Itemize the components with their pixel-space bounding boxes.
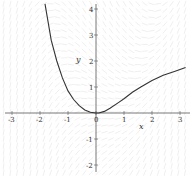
y-tick-label: -1 xyxy=(86,136,93,144)
x-tick-label: -3 xyxy=(8,116,15,124)
slope-field xyxy=(3,1,186,176)
x-tick-label: 3 xyxy=(178,116,182,124)
direction-field-plot: -3-2-10123-2-11234 y x xyxy=(0,0,193,176)
y-axis-label: y xyxy=(75,55,81,64)
x-tick-label: 2 xyxy=(150,116,154,124)
axes xyxy=(5,4,190,172)
x-tick-label: -1 xyxy=(64,116,71,124)
x-tick-label: -2 xyxy=(36,116,43,124)
x-axis-label: x xyxy=(139,122,144,131)
x-tick-label: 0 xyxy=(94,116,98,124)
y-tick-label: 4 xyxy=(89,6,94,14)
y-tick-label: 2 xyxy=(89,58,93,66)
y-tick-label: 3 xyxy=(89,32,93,40)
x-tick-label: 1 xyxy=(122,116,126,124)
y-tick-label: -2 xyxy=(86,162,93,170)
y-tick-label: 1 xyxy=(89,84,93,92)
